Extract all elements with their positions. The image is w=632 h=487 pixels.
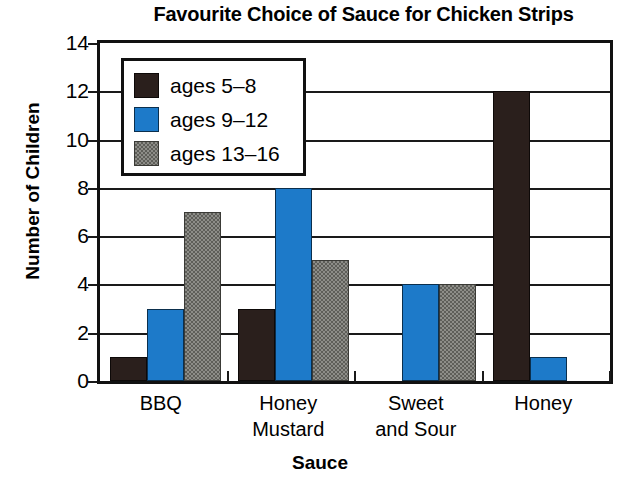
legend-label: ages 5–8 [170, 75, 256, 96]
bar [110, 357, 147, 381]
legend-label: ages 9–12 [170, 109, 268, 130]
chart-title: Favourite Choice of Sauce for Chicken St… [95, 2, 632, 26]
x-category-label: Sweet and Sour [352, 390, 480, 442]
bar [493, 91, 530, 381]
x-axis-title: Sauce [95, 452, 545, 474]
legend-item: ages 13–16 [134, 136, 303, 170]
legend-swatch-icon [134, 107, 159, 132]
y-tick-mark [88, 381, 97, 383]
x-category-label: Honey [480, 390, 608, 416]
y-tick-mark [88, 188, 97, 190]
bar [312, 260, 349, 381]
bar [530, 357, 567, 381]
bar-chart: Favourite Choice of Sauce for Chicken St… [0, 0, 632, 487]
y-tick-label: 0 [49, 370, 89, 391]
x-tick-mark [482, 371, 484, 382]
y-tick-label: 10 [49, 129, 89, 150]
y-tick-mark [88, 333, 97, 335]
y-tick-mark [88, 91, 97, 93]
y-axis-ticks: 02468101214 [43, 40, 97, 384]
x-tick-mark [227, 371, 229, 382]
legend-swatch-icon [134, 73, 159, 98]
y-tick-label: 12 [49, 80, 89, 101]
bar [275, 188, 312, 381]
y-tick-label: 14 [49, 32, 89, 53]
bar [439, 284, 476, 381]
legend-label: ages 13–16 [170, 143, 280, 164]
y-tick-mark [88, 43, 97, 45]
legend-item: ages 5–8 [134, 68, 303, 102]
y-tick-mark [88, 140, 97, 142]
legend-item: ages 9–12 [134, 102, 303, 136]
x-tick-mark [609, 371, 611, 382]
bar [238, 309, 275, 381]
legend-swatch-icon [134, 141, 159, 166]
y-tick-label: 4 [49, 273, 89, 294]
x-category-label: BBQ [97, 390, 225, 416]
y-tick-mark [88, 284, 97, 286]
y-tick-label: 6 [49, 225, 89, 246]
bar [147, 309, 184, 381]
legend: ages 5–8ages 9–12ages 13–16 [121, 58, 306, 176]
y-tick-label: 8 [49, 177, 89, 198]
x-category-label: Honey Mustard [225, 390, 353, 442]
y-axis-title: Number of Children [22, 76, 44, 306]
x-axis-category-labels: BBQHoney MustardSweet and SourHoney [97, 390, 613, 450]
bar [402, 284, 439, 381]
x-tick-mark [354, 371, 356, 382]
bar [184, 212, 221, 381]
y-tick-mark [88, 236, 97, 238]
y-tick-label: 2 [49, 322, 89, 343]
